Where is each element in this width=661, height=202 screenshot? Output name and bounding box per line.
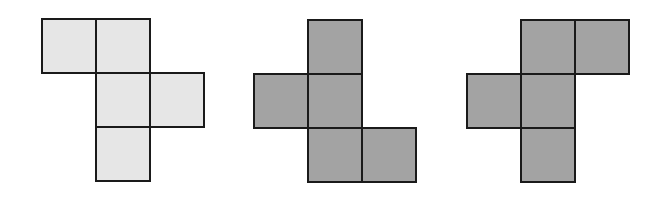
net-square (307, 127, 363, 183)
net-square (466, 73, 522, 129)
net-square (95, 18, 151, 74)
net-square (41, 18, 97, 74)
net-square (520, 73, 576, 129)
net-square (95, 72, 151, 128)
net-square (574, 19, 630, 75)
net-square (253, 73, 309, 129)
net-square (520, 19, 576, 75)
net-square (307, 73, 363, 129)
net-square (307, 19, 363, 75)
net-square (95, 126, 151, 182)
net-square (520, 127, 576, 183)
net-square (149, 72, 205, 128)
net-square (361, 127, 417, 183)
